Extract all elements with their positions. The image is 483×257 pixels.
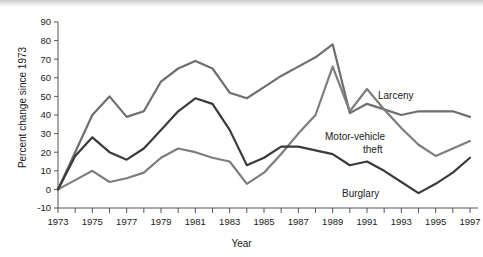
y-tick-label: 90 bbox=[40, 16, 51, 27]
y-tick-label: 40 bbox=[40, 109, 51, 120]
y-tick-label: 60 bbox=[40, 72, 51, 83]
x-tick-label: 1987 bbox=[288, 216, 309, 227]
y-tick-label: 10 bbox=[40, 165, 51, 176]
y-tick-label: 80 bbox=[40, 35, 51, 46]
y-tick-label: 50 bbox=[40, 91, 51, 102]
x-tick-label: 1991 bbox=[356, 216, 377, 227]
series-line-motor-vehicle-theft bbox=[58, 67, 470, 190]
y-tick-label: 30 bbox=[40, 128, 51, 139]
series-label-motor-vehicle-theft: Motor-vehicle bbox=[325, 131, 385, 142]
series-label-larceny: Larceny bbox=[378, 90, 414, 101]
y-axis: -100102030405060708090 bbox=[37, 16, 58, 213]
series-lines bbox=[58, 44, 470, 193]
series-line-larceny bbox=[58, 44, 470, 189]
x-axis: 1973197519771979198119831985198719891991… bbox=[47, 208, 480, 227]
x-tick-label: 1983 bbox=[219, 216, 240, 227]
y-tick-label: 70 bbox=[40, 54, 51, 65]
x-tick-label: 1995 bbox=[425, 216, 446, 227]
x-tick-label: 1975 bbox=[82, 216, 103, 227]
x-axis-title: Year bbox=[0, 238, 483, 249]
x-tick-label: 1989 bbox=[322, 216, 343, 227]
x-tick-label: 1993 bbox=[391, 216, 412, 227]
x-tick-label: 1985 bbox=[253, 216, 274, 227]
y-tick-label: 0 bbox=[46, 184, 51, 195]
y-axis-title: Percent change since 1973 bbox=[17, 42, 28, 174]
y-tick-label: 20 bbox=[40, 147, 51, 158]
chart-canvas: -100102030405060708090 19731975197719791… bbox=[0, 0, 483, 257]
series-label-burglary: Burglary bbox=[342, 188, 379, 199]
x-tick-label: 1979 bbox=[150, 216, 171, 227]
line-chart: -100102030405060708090 19731975197719791… bbox=[0, 0, 483, 257]
x-tick-label: 1977 bbox=[116, 216, 137, 227]
x-tick-label: 1997 bbox=[459, 216, 480, 227]
y-axis-title-wrap: Percent change since 1973 bbox=[0, 0, 1, 1]
x-tick-label: 1973 bbox=[47, 216, 68, 227]
series-annotations: LarcenyMotor-vehicletheftBurglary bbox=[325, 90, 414, 199]
x-tick-label: 1981 bbox=[185, 216, 206, 227]
y-tick-label: -10 bbox=[37, 202, 51, 213]
series-label-motor-vehicle-theft: theft bbox=[363, 144, 383, 155]
